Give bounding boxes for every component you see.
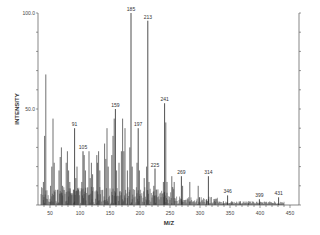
- peak-label: 314: [204, 169, 213, 175]
- peak-label: 185: [127, 6, 136, 12]
- x-tick-label: 100: [76, 210, 85, 216]
- x-tick-label: 300: [196, 210, 205, 216]
- y-axis-ticks: [36, 13, 301, 205]
- x-tick-label: 400: [256, 210, 265, 216]
- x-axis-ticks: 50100150200250300350400450: [44, 205, 294, 216]
- x-axis-title: M/Z: [164, 220, 175, 226]
- y-tick-label-100: 100.0: [22, 10, 35, 16]
- x-tick-label: 200: [136, 210, 145, 216]
- y-axis-title: INTENSITY: [14, 93, 20, 124]
- x-tick-label: 250: [166, 210, 175, 216]
- peak-labels: 91105159185197213225241269314346399431: [72, 6, 283, 198]
- peak-label: 399: [255, 192, 264, 198]
- mass-spectrum-chart: 91105159185197213225241269314346399431 5…: [0, 0, 320, 235]
- peak-label: 241: [160, 96, 169, 102]
- peak-label: 159: [111, 102, 120, 108]
- peak-label: 91: [72, 121, 78, 127]
- spectrum-peaks: [41, 13, 284, 205]
- x-tick-label: 350: [226, 210, 235, 216]
- peak-label: 213: [144, 14, 153, 20]
- x-tick-label: 450: [286, 210, 295, 216]
- x-tick-label: 150: [106, 210, 115, 216]
- peak-label: 197: [134, 121, 143, 127]
- peak-label: 431: [274, 190, 283, 196]
- x-tick-label: 50: [47, 210, 53, 216]
- y-tick-label-50: 50.0: [25, 106, 35, 112]
- peak-label: 105: [79, 144, 88, 150]
- peak-label: 346: [223, 188, 232, 194]
- peak-label: 225: [151, 162, 160, 168]
- peak-label: 269: [177, 169, 186, 175]
